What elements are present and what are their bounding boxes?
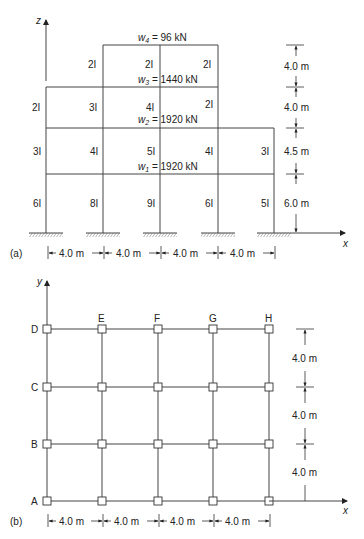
svg-text:9I: 9I [147,198,155,209]
svg-text:2I: 2I [205,99,213,110]
svg-text:4I: 4I [146,102,154,113]
x-axis-label-b: x [342,505,349,516]
svg-text:4.0 m: 4.0 m [292,353,317,364]
load-w2: w2 = 1920 kN [138,114,198,126]
svg-text:4.0 m: 4.0 m [116,248,141,259]
svg-text:2I: 2I [32,102,40,113]
x-axis-label: x [342,238,349,249]
svg-text:6I: 6I [205,198,213,209]
bay-dimensions-a: 4.0 m 4.0 m 4.0 m 4.0 m [48,246,275,259]
svg-text:4.0 m: 4.0 m [284,61,309,72]
svg-text:2I: 2I [88,59,96,70]
bay-dimensions-b: 4.0 m 4.0 m 4.0 m 4.0 m [48,514,270,527]
svg-text:2I: 2I [203,59,211,70]
svg-text:C: C [31,382,38,393]
figure-b-label: (b) [10,516,22,527]
z-axis-label: z [35,15,41,26]
elevation-view: z [10,15,349,259]
plan-grid [47,329,269,501]
load-w4: w4 = 96 kN [138,32,187,44]
svg-text:8I: 8I [90,198,98,209]
svg-text:5I: 5I [261,198,269,209]
structural-diagram: z [0,0,364,539]
fixed-supports [29,233,291,237]
svg-text:4.0 m: 4.0 m [230,248,255,259]
svg-text:2I: 2I [145,59,153,70]
svg-text:4.0 m: 4.0 m [225,516,250,527]
svg-text:4.0 m: 4.0 m [284,102,309,113]
svg-text:4.0 m: 4.0 m [292,410,317,421]
grid-labels: D C B A E F G H [31,313,272,507]
plan-view: y D C B A E F G H [10,276,349,527]
svg-text:4.0 m: 4.0 m [59,516,84,527]
svg-text:4I: 4I [205,146,213,157]
svg-text:6.0 m: 6.0 m [284,198,309,209]
height-dimensions: 4.0 m 4.0 m 4.5 m 6.0 m [284,45,309,232]
svg-text:4.0 m: 4.0 m [59,248,84,259]
svg-text:F: F [154,313,160,324]
svg-text:4.0 m: 4.0 m [114,516,139,527]
svg-text:A: A [31,496,38,507]
load-w3: w3 = 1440 kN [138,74,198,86]
svg-text:4.0 m: 4.0 m [292,467,317,478]
svg-text:6I: 6I [33,198,41,209]
svg-text:B: B [31,439,38,450]
svg-text:E: E [98,313,105,324]
spacing-dimensions-b: 4.0 m 4.0 m 4.0 m [292,329,317,501]
svg-text:D: D [31,324,38,335]
svg-text:3I: 3I [89,102,97,113]
y-axis-label: y [36,276,43,287]
svg-text:4.5 m: 4.5 m [284,146,309,157]
svg-text:5I: 5I [147,146,155,157]
svg-text:4.0 m: 4.0 m [170,516,195,527]
svg-text:G: G [209,313,217,324]
svg-text:4.0 m: 4.0 m [173,248,198,259]
load-w1: w1 = 1920 kN [138,161,198,173]
svg-text:H: H [265,313,272,324]
svg-text:3I: 3I [261,146,269,157]
figure-a-label: (a) [10,248,22,259]
svg-text:4I: 4I [90,146,98,157]
svg-text:3I: 3I [33,146,41,157]
